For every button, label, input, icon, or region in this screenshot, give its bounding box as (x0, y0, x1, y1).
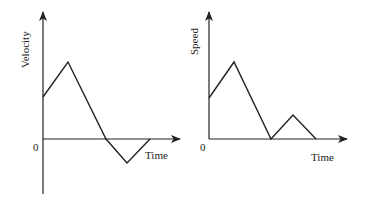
velocity-origin-label: 0 (33, 141, 39, 153)
speed-line (209, 62, 316, 139)
speed-x-label: Time (311, 151, 334, 163)
figure: Velocity Time 0 Speed Time 0 (0, 0, 365, 204)
speed-origin-label: 0 (200, 141, 206, 153)
velocity-y-label: Velocity (19, 31, 31, 68)
speed-chart: Speed Time 0 (188, 12, 347, 163)
velocity-x-label: Time (145, 149, 168, 161)
speed-y-label: Speed (188, 28, 200, 55)
velocity-line (43, 62, 150, 163)
velocity-chart: Velocity Time 0 (19, 12, 180, 194)
